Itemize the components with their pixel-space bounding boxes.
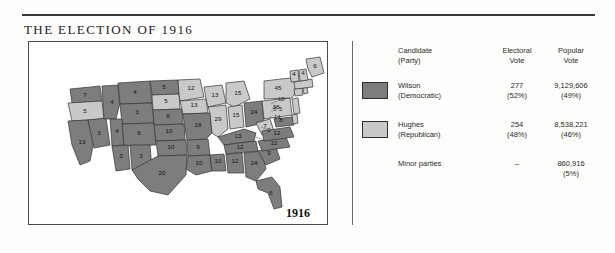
state-votes-nj: 14 (274, 114, 281, 120)
state-votes-tn: 12 (237, 143, 244, 150)
legend-candidate-wilson: Wilson (Democratic) (398, 81, 493, 100)
legend-header-popular: Popular Vote (541, 46, 601, 65)
state-votes-ct: 7 (273, 106, 276, 112)
legend-swatch-hughes (362, 121, 388, 138)
state-votes-az: 3 (119, 152, 123, 159)
legend-header-popular-line1: Popular (541, 46, 601, 56)
state-votes-nv: 3 (97, 129, 101, 136)
state-votes-tx: 20 (159, 169, 166, 176)
state-votes-il: 29 (215, 115, 222, 122)
state-votes-wi: 13 (212, 91, 219, 98)
state-votes-id: 4 (110, 98, 114, 105)
legend-header-popular-line2: Vote (541, 56, 601, 66)
state-votes-ri: 5 (279, 106, 282, 112)
legend-electoral-hughes-value: 254 (493, 120, 541, 130)
legend-popular-wilson: 9,129,606 (49%) (541, 81, 601, 100)
state-votes-ar: 9 (196, 143, 200, 150)
state-votes-wa: 7 (83, 91, 87, 98)
state-votes-co: 6 (137, 129, 141, 136)
state-votes-ca: 13 (79, 138, 86, 145)
state-votes-nc: 12 (271, 139, 278, 146)
state-votes-me: 6 (313, 62, 317, 69)
legend-popular-minor-value: 860,916 (541, 159, 601, 169)
legend-candidate-minor-name: Minor parties (398, 159, 493, 169)
state-votes-nd: 5 (162, 83, 166, 90)
state-votes-ny: 45 (275, 84, 282, 91)
legend-popular-hughes-pct: (46%) (541, 130, 601, 140)
legend-header-candidate-line1: Candidate (398, 46, 493, 56)
legend-header-candidate: Candidate (Party) (398, 46, 493, 65)
election-map-figure: THE ELECTION OF 1916 7513344346335581010… (0, 0, 615, 253)
state-nj (292, 98, 300, 114)
state-votes-in: 15 (233, 111, 240, 118)
legend-electoral-wilson-pct: (52%) (493, 91, 541, 101)
state-votes-va: 12 (274, 129, 281, 136)
us-electoral-map: 7513344346335581010201213189101329101515… (28, 41, 328, 225)
legend-electoral-wilson-value: 277 (493, 81, 541, 91)
page-title: THE ELECTION OF 1916 (24, 22, 193, 38)
legend-candidate-hughes-party: (Republican) (398, 130, 493, 140)
state-votes-nm: 3 (139, 152, 143, 159)
state-votes-ky: 13 (235, 132, 242, 139)
legend-popular-minor-pct: (5%) (541, 169, 601, 179)
state-votes-fl: 6 (269, 189, 273, 196)
state-votes-sd: 5 (164, 97, 168, 104)
legend-electoral-wilson: 277 (52%) (493, 81, 541, 100)
map-year-label: 1916 (286, 206, 310, 221)
top-divider-rule (22, 14, 595, 16)
legend-popular-wilson-value: 9,129,606 (541, 81, 601, 91)
state-votes-or: 5 (83, 107, 87, 114)
state-votes-ks: 10 (166, 127, 173, 134)
state-votes-ga: 14 (251, 159, 258, 166)
legend-electoral-minor-value: – (493, 159, 541, 169)
state-votes-ut: 4 (115, 127, 119, 134)
legend-candidate-hughes: Hughes (Republican) (398, 120, 493, 139)
state-votes-ok: 10 (168, 143, 175, 150)
state-votes-ma: 18 (278, 96, 284, 102)
legend-popular-hughes: 8,538,221 (46%) (541, 120, 601, 139)
legend-popular-hughes-value: 8,538,221 (541, 120, 601, 130)
state-votes-wy: 3 (135, 108, 139, 115)
state-votes-ia: 13 (191, 101, 198, 108)
legend-header-electoral-line1: Electoral (493, 46, 541, 56)
legend-swatch-wilson (362, 82, 388, 99)
results-legend: Candidate (Party) Electoral Vote Popular… (362, 46, 602, 178)
state-votes-mi: 15 (235, 89, 242, 96)
state-votes-oh: 24 (251, 108, 258, 115)
legend-row-hughes: Hughes (Republican) 254 (48%) 8,538,221 … (362, 120, 602, 139)
legend-popular-wilson-pct: (49%) (541, 91, 601, 101)
state-votes-mo: 18 (195, 121, 202, 128)
legend-candidate-wilson-name: Wilson (398, 81, 493, 91)
state-votes-vt: 4 (292, 70, 296, 77)
legend-header-row: Candidate (Party) Electoral Vote Popular… (362, 46, 602, 65)
legend-electoral-minor: – (493, 159, 541, 169)
state-de (292, 114, 298, 124)
state-votes-nh: 4 (301, 69, 305, 76)
legend-candidate-minor: Minor parties (398, 159, 493, 169)
legend-header-electoral-line2: Vote (493, 56, 541, 66)
legend-candidate-wilson-party: (Democratic) (398, 91, 493, 101)
state-votes-la: 10 (196, 159, 203, 166)
state-votes-ms: 10 (215, 157, 222, 164)
legend-row-minor-parties: Minor parties – 860,916 (5%) (362, 159, 602, 178)
state-votes-al: 12 (232, 157, 239, 164)
state-votes-ne: 8 (166, 112, 170, 119)
legend-swatch-minor-spacer (362, 160, 388, 177)
legend-header-candidate-line2: (Party) (398, 56, 493, 66)
legend-row-wilson: Wilson (Democratic) 277 (52%) 9,129,606 … (362, 81, 602, 100)
state-votes-mt: 4 (133, 88, 137, 95)
panel-divider (352, 41, 353, 225)
legend-electoral-hughes-pct: (48%) (493, 130, 541, 140)
state-votes-sc: 9 (267, 149, 271, 156)
legend-candidate-hughes-name: Hughes (398, 120, 493, 130)
state-votes-mn: 12 (188, 84, 195, 91)
legend-popular-minor: 860,916 (5%) (541, 159, 601, 178)
legend-header-electoral: Electoral Vote (493, 46, 541, 65)
legend-electoral-hughes: 254 (48%) (493, 120, 541, 139)
legend-header-swatch-spacer (362, 47, 388, 64)
